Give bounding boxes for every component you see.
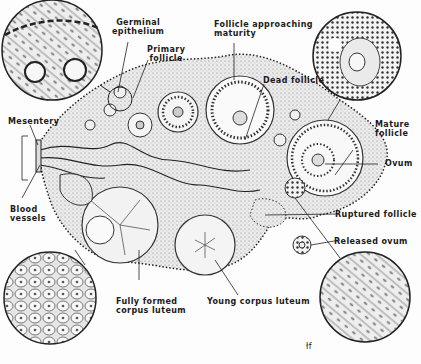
label-germinal-epithelium: Germinal epithelium xyxy=(112,18,164,36)
label-primary-follicle: Primary follicle xyxy=(147,45,185,63)
label-released-ovum: Released ovum xyxy=(334,237,408,246)
artist-signature: łf xyxy=(306,342,312,351)
label-young-corpus-luteum: Young corpus luteum xyxy=(207,297,310,306)
label-mesentery: Mesentery xyxy=(8,117,59,126)
ovary-diagram: Germinal epithelium Primary follicle Fol… xyxy=(0,0,421,364)
label-ruptured-follicle: Ruptured follicle xyxy=(335,210,417,219)
label-blood-vessels: Blood vessels xyxy=(10,205,46,223)
label-ovum: Ovum xyxy=(385,159,413,168)
label-fully-formed-corpus-luteum: Fully formed corpus luteum xyxy=(116,297,186,315)
label-follicle-approaching-maturity: Follicle approaching maturity xyxy=(214,20,313,38)
label-dead-follicle: Dead follicle xyxy=(263,76,324,85)
label-mature-follicle: Mature follicle xyxy=(375,120,410,138)
ovary-illustration xyxy=(0,0,421,364)
